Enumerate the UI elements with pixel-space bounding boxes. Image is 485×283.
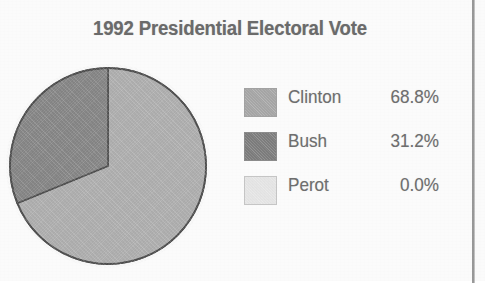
legend-value-perot: 0.0% — [336, 174, 440, 196]
legend-swatch-clinton — [244, 88, 277, 117]
pie-chart — [6, 64, 210, 268]
legend: Clinton 68.8% Bush 31.2% Perot 0.0% — [244, 86, 444, 218]
legend-value-clinton: 68.8% — [336, 86, 440, 108]
legend-row-bush[interactable]: Bush 31.2% — [244, 130, 444, 174]
pie-chart-svg — [6, 64, 210, 268]
legend-value-bush: 31.2% — [336, 130, 440, 152]
chart-title: 1992 Presidential Electoral Vote — [16, 17, 444, 40]
legend-swatch-bush — [244, 132, 277, 161]
legend-label-bush: Bush — [288, 130, 327, 152]
legend-label-perot: Perot — [288, 174, 329, 196]
legend-row-perot[interactable]: Perot 0.0% — [244, 174, 444, 218]
legend-label-clinton: Clinton — [288, 86, 341, 108]
page-border-rule — [472, 0, 474, 283]
legend-swatch-perot — [244, 176, 277, 205]
legend-row-clinton[interactable]: Clinton 68.8% — [244, 86, 444, 130]
